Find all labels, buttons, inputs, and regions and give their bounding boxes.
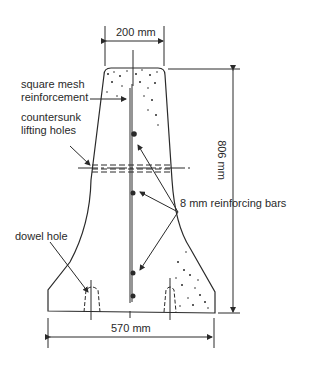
aggregate-texture	[106, 69, 209, 309]
dowel-label: dowel hole	[15, 230, 68, 242]
height-label: 806 mm	[216, 135, 228, 185]
mesh-label-1: square mesh	[21, 78, 85, 90]
reinforcing-bars	[131, 131, 137, 298]
barrier-drawing	[0, 0, 310, 366]
mesh-label-2: reinforcement	[21, 91, 88, 103]
top-width-label: 200 mm	[116, 26, 156, 38]
height-dimension	[168, 69, 240, 313]
lifting-label-1: countersunk	[21, 111, 81, 123]
bars-label: 8 mm reinforcing bars	[180, 197, 286, 209]
base-width-label: 570 mm	[111, 322, 151, 334]
lifting-label-2: lifting holes	[21, 124, 76, 136]
